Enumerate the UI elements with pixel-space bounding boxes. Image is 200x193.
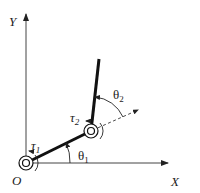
tau1-label: τ1 [31,138,40,155]
theta1-label: θ1 [78,148,89,165]
link-1-extension [93,110,138,130]
y-axis-label: Y [9,14,18,29]
theta1-arc [66,143,70,163]
origin-label: O [12,173,22,188]
x-axis-label: X [170,174,180,189]
link-2 [91,59,99,131]
theta2-label: θ2 [113,87,124,104]
tau2-label: τ2 [70,110,80,127]
robot-arm-diagram: Y X O θ1 θ2 τ1 τ2 [0,0,200,193]
joint-2 [84,123,103,139]
